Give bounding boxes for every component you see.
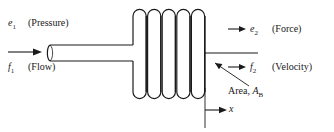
- label-e1-symbol: e1: [8, 18, 16, 31]
- velocity-arrow-icon: [228, 64, 246, 70]
- bellows-transducer-diagram: e1 (Pressure) f1 (Flow) e2 (Force) f2 (V…: [0, 0, 334, 132]
- label-e1-description: (Pressure): [28, 18, 69, 28]
- label-area: Area, AB: [228, 86, 263, 99]
- label-f2-description: (Velocity): [272, 62, 312, 72]
- label-e2-symbol: e2: [250, 24, 258, 37]
- force-arrow-icon: [228, 26, 246, 32]
- inlet-flow-arrow-icon: [8, 48, 42, 55]
- label-f1-description: (Flow): [28, 62, 55, 72]
- label-e2-description: (Force): [272, 24, 301, 34]
- bellows: [133, 9, 205, 98]
- displacement-arrow-icon: [205, 107, 227, 114]
- label-f1-symbol: f1: [8, 62, 14, 75]
- inlet-tube: [47, 45, 133, 61]
- label-f2-symbol: f2: [250, 62, 256, 75]
- label-displacement: x: [229, 104, 233, 114]
